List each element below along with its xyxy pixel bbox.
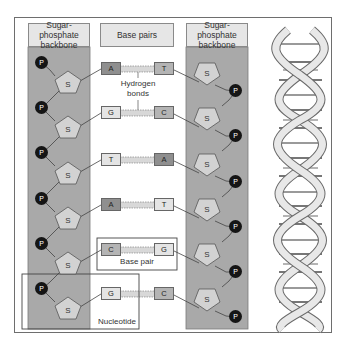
header-left-backbone: Sugar-phosphate backbone	[28, 23, 90, 47]
sugar-right-2: S	[194, 113, 220, 125]
base-right-6: C	[154, 287, 174, 300]
sugar-left-1: S	[55, 79, 81, 91]
header-base-pairs: Base pairs	[100, 23, 174, 47]
phosphate-right-1: P	[229, 84, 242, 97]
sugar-left-5: S	[55, 260, 81, 272]
phosphate-right-4: P	[229, 220, 242, 233]
phosphate-left-2: P	[35, 101, 48, 114]
base-left-1: A	[101, 62, 121, 75]
base-right-2: C	[154, 106, 174, 119]
phosphate-left-4: P	[35, 192, 48, 205]
dna-structure-diagram	[0, 0, 350, 356]
sugar-left-6: S	[55, 305, 81, 317]
phosphate-right-3: P	[229, 175, 242, 188]
phosphate-left-5: P	[35, 237, 48, 250]
base-left-2: G	[101, 106, 121, 119]
sugar-right-4: S	[194, 204, 220, 216]
sugar-left-4: S	[55, 215, 81, 227]
base-left-3: T	[101, 153, 121, 166]
sugar-left-3: S	[55, 170, 81, 182]
base-right-3: A	[154, 153, 174, 166]
header-right-backbone: Sugar-phosphate backbone	[186, 23, 248, 47]
phosphate-right-2: P	[229, 129, 242, 142]
phosphate-left-6: P	[35, 282, 48, 295]
base-right-5: G	[154, 243, 174, 256]
base-pair-label: Base pair	[110, 257, 164, 267]
sugar-right-1: S	[194, 68, 220, 80]
double-helix-illustration	[276, 30, 325, 330]
hydrogen-bonds-label: Hydrogen bonds	[113, 79, 163, 99]
base-left-5: C	[101, 243, 121, 256]
sugar-right-5: S	[194, 249, 220, 261]
sugar-left-2: S	[55, 124, 81, 136]
sugar-right-3: S	[194, 159, 220, 171]
phosphate-left-3: P	[35, 146, 48, 159]
sugar-right-6: S	[194, 294, 220, 306]
base-left-4: A	[101, 198, 121, 211]
phosphate-right-5: P	[229, 265, 242, 278]
nucleotide-label: Nucleotide	[96, 317, 138, 327]
phosphate-left-1: P	[35, 56, 48, 69]
base-right-1: T	[154, 62, 174, 75]
base-left-6: G	[101, 287, 121, 300]
phosphate-right-6: P	[229, 310, 242, 323]
base-right-4: T	[154, 198, 174, 211]
